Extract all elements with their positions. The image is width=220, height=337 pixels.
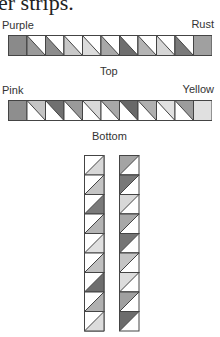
- vertical-strip-right: [119, 155, 140, 332]
- bottom-caption: Bottom: [92, 130, 127, 142]
- top-right-label: Rust: [191, 18, 214, 30]
- bottom-right-label: Yellow: [183, 83, 214, 95]
- bottom-left-label: Pink: [2, 84, 23, 96]
- heading-text: er strips.: [0, 0, 74, 16]
- top-left-label: Purple: [2, 19, 34, 31]
- vertical-strip-left: [84, 155, 105, 332]
- top-strip-diagram: [8, 35, 212, 56]
- top-caption: Top: [100, 65, 118, 77]
- bottom-strip-diagram: [8, 100, 212, 121]
